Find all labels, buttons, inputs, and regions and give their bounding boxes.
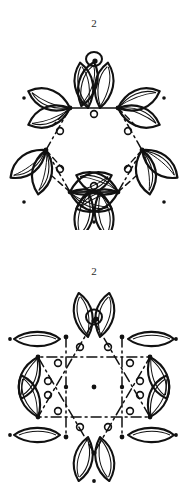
figure-2-label: 2	[0, 265, 188, 277]
figure-1-label: 2	[0, 17, 188, 29]
figure-1-petals	[5, 60, 184, 230]
figure-1: 2	[0, 0, 188, 251]
figure-2-drawing	[0, 277, 188, 497]
figure-1-beads	[57, 111, 132, 190]
figure-1-drawing	[0, 30, 188, 230]
diagram-page: 2	[0, 0, 188, 502]
figure-2: 2	[0, 251, 188, 502]
